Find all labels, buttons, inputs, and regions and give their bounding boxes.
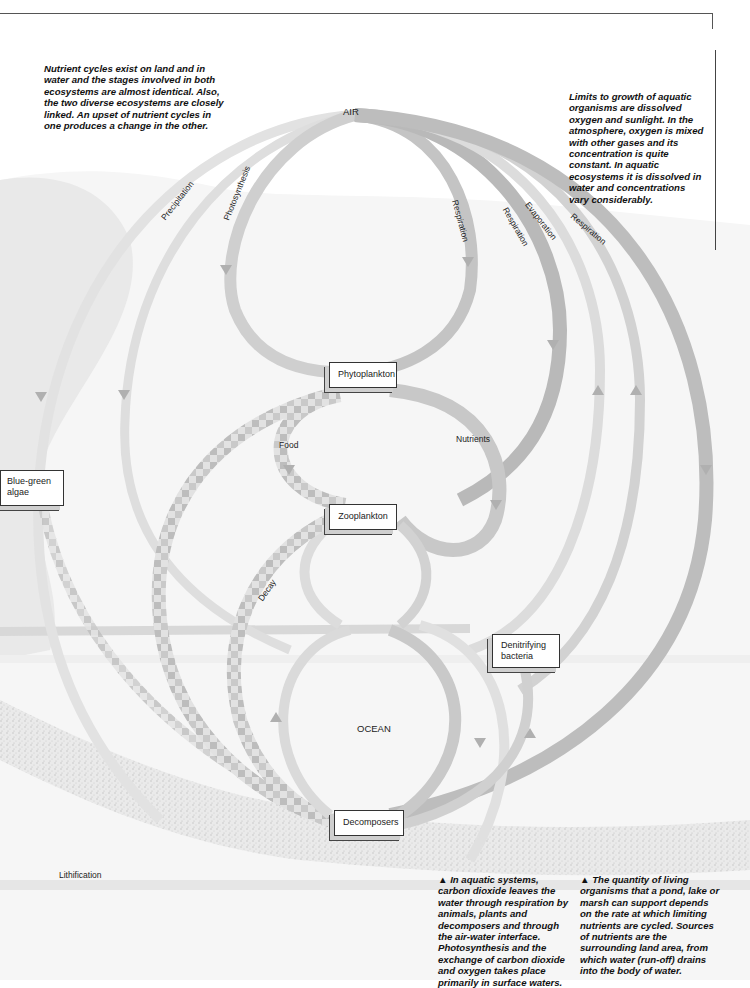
node-blue-green-algae-label: Blue-green algae — [7, 476, 51, 497]
caption-divider — [715, 50, 716, 250]
caption-nutrient-cycles: Nutrient cycles exist on land and in wat… — [44, 63, 226, 131]
node-denitrifying-bacteria-label: Denitrifying bacteria — [501, 640, 546, 661]
region-label-air: AIR — [343, 106, 359, 117]
caption-carbon-dioxide: ▲ In aquatic systems, carbon dioxide lea… — [438, 874, 573, 988]
node-blue-green-algae: Blue-green algae — [0, 470, 64, 506]
node-zooplankton: Zooplankton — [329, 504, 397, 530]
node-zooplankton-label: Zooplankton — [338, 511, 388, 521]
caption-limits-to-growth: Limits to growth of aquatic organisms ar… — [569, 91, 704, 205]
node-decomposers-label: Decomposers — [343, 817, 399, 827]
flow-label-lithification: Lithification — [59, 870, 102, 880]
flow-label-nutrients: Nutrients — [456, 434, 490, 444]
node-denitrifying-bacteria: Denitrifying bacteria — [492, 634, 560, 668]
caption-living-organisms: ▲ The quantity of living organisms that … — [580, 874, 720, 977]
node-phytoplankton-label: Phytoplankton — [338, 369, 395, 379]
flow-label-food: Food — [279, 440, 298, 450]
node-phytoplankton: Phytoplankton — [329, 362, 397, 388]
region-label-ocean: OCEAN — [357, 723, 391, 734]
node-decomposers: Decomposers — [334, 810, 404, 836]
